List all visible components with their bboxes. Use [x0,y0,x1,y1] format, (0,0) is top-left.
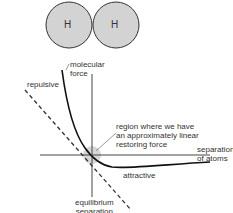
linear-region-label: region where we have an approximately li… [116,122,199,149]
equilibrium-label: equilibrium separation [75,198,114,213]
y-axis-label-line2: force [70,69,105,78]
equilibrium-label-line1: equilibrium [75,198,114,207]
diagram-canvas [0,0,233,213]
region-label-line2: an approximately linear [116,131,199,140]
linear-approximation-line [25,90,131,210]
region-label-line3: restoring force [116,140,199,149]
x-axis-label-line1: separation [197,145,233,154]
attractive-label: attractive [123,171,155,180]
y-axis-label: molecular force [70,60,105,78]
repulsive-label: repulsive [27,80,59,89]
equilibrium-label-line2: separation [75,207,114,213]
x-axis-label-line2: of atoms [197,154,233,163]
x-axis-label: separation of atoms [197,145,233,163]
force-label-leader [66,64,69,70]
region-label-leader [96,133,116,151]
region-label-line1: region where we have [116,122,199,131]
y-axis-label-line1: molecular [70,60,105,69]
atom-left-label: H [64,20,71,29]
atom-right-label: H [111,20,118,29]
